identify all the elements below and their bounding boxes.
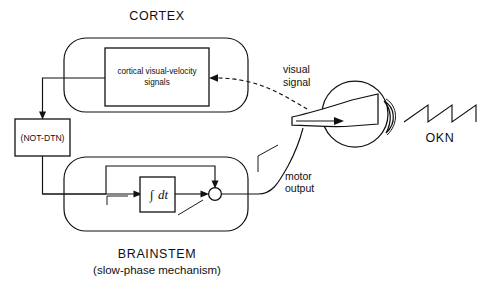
integrator-bias-tick [107,196,128,205]
motor-output-label-line1: motor [285,170,312,182]
okn-label: OKN [425,131,454,145]
cortex-title: CORTEX [129,9,185,23]
motor-output-bracket [258,145,278,172]
okn-sawtooth-waveform [404,105,476,122]
notdtn-to-brainstem-connector [43,156,107,194]
visual-signal-arrowhead [209,74,218,82]
cortical-signals-label-line1: cortical visual-velocity [117,67,197,76]
integrator-dt-label: dt [158,187,169,202]
feedback-arrowhead [212,181,219,189]
cortical-signals-label-line2: signals [144,78,170,87]
okn-model-diagram: cortical visual-velocity signals CORTEX … [0,0,490,291]
visual-signal-label-line1: visual [283,63,310,75]
not-dtn-label: (NOT-DTN) [21,133,65,143]
brainstem-title: BRAINSTEM [118,247,196,261]
brainstem-subtitle: (slow-phase mechanism) [93,264,221,276]
motor-output-label-line2: output [285,182,314,194]
visual-signal-label-line2: signal [283,76,310,88]
summing-input-arrowhead [201,190,210,197]
cortical-signals-box [105,48,209,106]
gain-slash-mark [178,200,203,215]
summing-junction [209,188,222,201]
diagram-canvas: cortical visual-velocity signals CORTEX … [0,0,490,291]
cortex-to-notdtn-arrowhead [39,112,46,120]
